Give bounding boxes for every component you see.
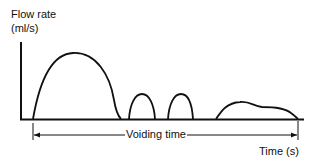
y-axis-label-line2: (ml/s) [11,22,39,35]
arrowhead-right-icon [291,133,297,138]
flow-episode-2 [129,94,155,119]
flow-episode-3 [168,94,193,119]
voiding-time-label: Voiding time [125,128,187,141]
flow-episode-1 [33,53,121,119]
flow-episode-4 [216,102,298,119]
arrowhead-left-icon [34,133,40,138]
y-axis-label-line1: Flow rate [11,8,56,21]
x-axis-label: Time (s) [259,145,299,158]
